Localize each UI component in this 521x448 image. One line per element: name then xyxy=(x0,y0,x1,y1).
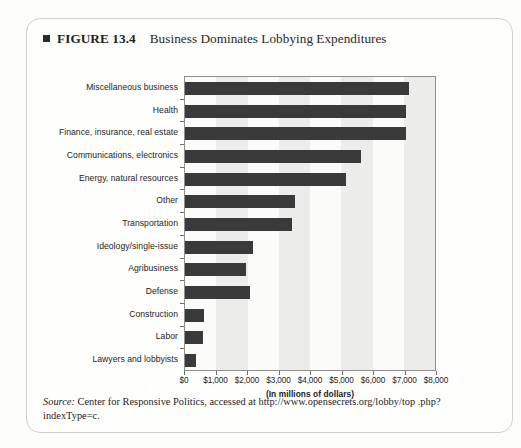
y-axis-label: Transportation xyxy=(122,218,178,228)
bar xyxy=(185,150,361,163)
x-axis-tick xyxy=(279,371,280,375)
bar-row xyxy=(185,150,437,163)
source-prefix: Source: xyxy=(43,396,75,407)
x-axis-tick xyxy=(310,371,311,375)
bar-row xyxy=(185,82,437,95)
x-axis-tick xyxy=(405,371,406,375)
bar xyxy=(185,263,246,276)
bar-row xyxy=(185,127,437,140)
x-axis-tick-label: $1,000 xyxy=(203,376,227,385)
bar-row xyxy=(185,105,437,118)
bar-row xyxy=(185,331,437,344)
x-axis-tick xyxy=(342,371,343,375)
bar-row xyxy=(185,309,437,322)
bar-row xyxy=(185,195,437,208)
x-axis-tick-label: $5,000 xyxy=(329,376,353,385)
x-axis-tick-labels: $0$1,000$2,000$3,000$4,000$5,000$6,000$7… xyxy=(184,376,436,390)
y-axis-label: Other xyxy=(156,195,178,205)
x-axis-tick-label: $2,000 xyxy=(235,376,259,385)
y-axis-label: Communications, electronics xyxy=(67,150,178,160)
y-axis-label: Miscellaneous business xyxy=(86,82,178,92)
bar xyxy=(185,331,203,344)
x-axis-tick xyxy=(184,371,185,375)
y-axis-label: Construction xyxy=(129,309,178,319)
y-axis-label: Health xyxy=(153,105,178,115)
y-axis-label: Defense xyxy=(146,286,178,296)
bars-group xyxy=(185,77,435,370)
source-text: Center for Responsive Politics, accessed… xyxy=(43,396,441,421)
y-axis-label: Energy, natural resources xyxy=(79,173,178,183)
bar xyxy=(185,173,346,186)
x-axis-tick xyxy=(373,371,374,375)
x-axis-tick-label: $0 xyxy=(180,376,189,385)
y-axis-label: Finance, insurance, real estate xyxy=(59,127,178,137)
bar xyxy=(185,82,409,95)
bar xyxy=(185,195,295,208)
bar xyxy=(185,127,406,140)
bar-row xyxy=(185,263,437,276)
y-axis-label: Ideology/single-issue xyxy=(97,241,178,251)
x-axis-tick-label: $7,000 xyxy=(392,376,416,385)
y-axis-label: Lawyers and lobbyists xyxy=(92,354,178,364)
bar xyxy=(185,241,253,254)
y-axis-labels: Miscellaneous businessHealthFinance, ins… xyxy=(27,76,182,371)
x-axis-tick-label: $4,000 xyxy=(298,376,322,385)
bar-row xyxy=(185,354,437,367)
bar-row xyxy=(185,173,437,186)
figure-number: FIGURE 13.4 xyxy=(57,31,136,47)
x-axis-tick xyxy=(436,371,437,375)
y-axis-label: Labor xyxy=(156,331,178,341)
chart-area: Miscellaneous businessHealthFinance, ins… xyxy=(27,55,513,395)
x-axis-tick xyxy=(216,371,217,375)
source-note: Source: Center for Responsive Politics, … xyxy=(43,395,493,423)
filled-square-icon xyxy=(43,35,50,42)
figure-card: FIGURE 13.4 Business Dominates Lobbying … xyxy=(26,18,513,433)
plot-area xyxy=(184,76,436,371)
y-axis-label: Agribusiness xyxy=(128,263,178,273)
figure-title: Business Dominates Lobbying Expenditures xyxy=(150,31,387,47)
x-axis-tick xyxy=(247,371,248,375)
bar xyxy=(185,309,204,322)
bar xyxy=(185,354,196,367)
x-axis-tick-label: $3,000 xyxy=(266,376,290,385)
bar-row xyxy=(185,218,437,231)
bar xyxy=(185,286,250,299)
bar xyxy=(185,105,406,118)
bar-row xyxy=(185,286,437,299)
bar-row xyxy=(185,241,437,254)
x-axis-tick-label: $8,000 xyxy=(424,376,448,385)
bar xyxy=(185,218,292,231)
figure-caption: FIGURE 13.4 Business Dominates Lobbying … xyxy=(43,31,387,47)
x-axis-tick-label: $6,000 xyxy=(361,376,385,385)
